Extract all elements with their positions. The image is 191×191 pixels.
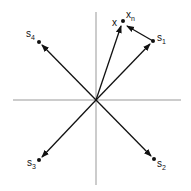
- label-s3: s3: [27, 157, 36, 170]
- vector-diagram: s1 s2 s3 s4 xn x: [0, 0, 191, 191]
- point-s3: [37, 158, 41, 162]
- label-x: x: [112, 17, 117, 28]
- label-xn: xn: [126, 9, 135, 22]
- point-s2: [152, 157, 156, 161]
- vector-s4: [42, 45, 96, 100]
- point-s1: [151, 39, 155, 43]
- vector-s1-to-xn: [127, 26, 153, 41]
- label-s1: s1: [157, 32, 166, 45]
- vector-s3: [42, 100, 96, 157]
- point-s4: [37, 40, 41, 44]
- vector-s2: [96, 100, 151, 156]
- label-s2: s2: [157, 158, 166, 171]
- vector-s1: [96, 44, 150, 100]
- point-xn: [121, 19, 125, 23]
- vector-x: [96, 26, 121, 100]
- label-s4: s4: [26, 28, 35, 41]
